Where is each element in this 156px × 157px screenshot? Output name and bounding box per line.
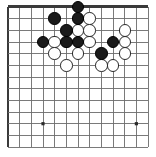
black-stone[interactable] bbox=[72, 12, 84, 24]
black-stone[interactable] bbox=[48, 12, 60, 24]
white-stone[interactable] bbox=[83, 24, 95, 36]
white-stone[interactable] bbox=[95, 59, 107, 71]
white-stone[interactable] bbox=[72, 47, 84, 59]
white-stone[interactable] bbox=[60, 59, 72, 71]
white-stone[interactable] bbox=[83, 36, 95, 48]
black-stone[interactable] bbox=[60, 36, 72, 48]
white-stone[interactable] bbox=[72, 24, 84, 36]
go-board[interactable] bbox=[0, 0, 156, 157]
black-stone[interactable] bbox=[60, 24, 72, 36]
white-stone[interactable] bbox=[48, 36, 60, 48]
black-stone[interactable] bbox=[95, 47, 107, 59]
white-stone[interactable] bbox=[119, 36, 131, 48]
white-stone[interactable] bbox=[48, 47, 60, 59]
star-point bbox=[41, 122, 44, 125]
star-point bbox=[135, 122, 138, 125]
white-stone[interactable] bbox=[119, 47, 131, 59]
white-stone[interactable] bbox=[119, 24, 131, 36]
white-stone[interactable] bbox=[83, 12, 95, 24]
white-stone[interactable] bbox=[107, 59, 119, 71]
